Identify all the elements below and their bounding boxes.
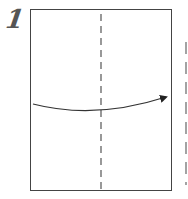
fold-diagram — [0, 0, 188, 199]
